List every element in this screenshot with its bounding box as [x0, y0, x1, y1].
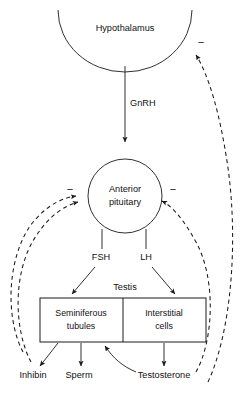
testis-label: Testis: [113, 282, 137, 292]
node-hypothalamus: Hypothalamus: [58, 10, 192, 72]
fsh-to-tubules-arrow: [72, 267, 95, 294]
feedback-minus-signs: − − −: [67, 36, 204, 195]
sperm-label: Sperm: [65, 370, 92, 380]
node-anterior-pituitary: Anterior pituitary: [88, 159, 162, 233]
interstitial-cells-label-line1: Interstitial: [145, 308, 183, 318]
testosterone-to-hypothalamus-dashed: [196, 55, 233, 382]
hpg-axis-diagram: Hypothalamus GnRH Anterior pituitary FSH…: [0, 0, 252, 404]
tubules-to-inhibin-arrow: [40, 343, 58, 366]
fsh-label: FSH: [92, 252, 110, 262]
seminiferous-tubules-label-line2: tubules: [67, 321, 96, 331]
arrow-gnrh: GnRH: [125, 66, 156, 142]
minus-sign-hypothalamus: −: [198, 36, 204, 48]
lh-label: LH: [140, 252, 152, 262]
lh-to-interstitial-arrow: [152, 267, 175, 294]
testosterone-label: Testosterone: [138, 370, 191, 380]
testosterone-to-pituitary-dashed: [162, 201, 210, 372]
anterior-pituitary-label-line2: pituitary: [109, 197, 142, 207]
interstitial-cells-label-line2: cells: [155, 321, 173, 331]
hypothalamus-label: Hypothalamus: [96, 23, 155, 33]
anterior-pituitary-label-line1: Anterior: [109, 184, 141, 194]
arrows-to-outputs: Inhibin Sperm Testosterone: [19, 343, 190, 380]
diagram-canvas: Hypothalamus GnRH Anterior pituitary FSH…: [0, 0, 252, 404]
seminiferous-tubules-label-line1: Seminiferous: [55, 308, 107, 318]
fsh-lh-stems: FSH LH: [92, 229, 152, 262]
anterior-pituitary-circle: [88, 159, 162, 233]
testosterone-to-tubules-curve: [105, 346, 136, 372]
hypothalamus-arc: [58, 10, 192, 72]
minus-sign-pituitary-right: −: [170, 183, 176, 195]
inhibin-label: Inhibin: [19, 370, 46, 380]
inhibin-feedback-dashed: [18, 202, 78, 362]
node-testis-box: Seminiferous tubules Interstitial cells: [40, 298, 206, 342]
minus-sign-pituitary-left: −: [67, 183, 73, 195]
gnrh-label: GnRH: [130, 98, 156, 108]
